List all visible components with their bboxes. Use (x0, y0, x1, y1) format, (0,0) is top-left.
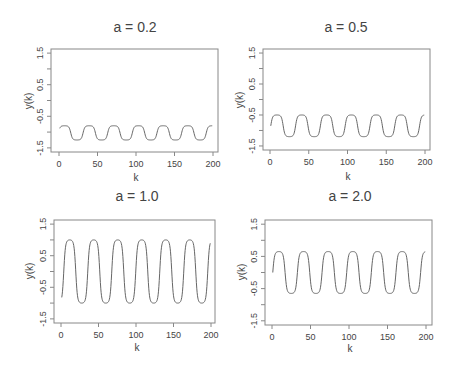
x-axis: 050100150200 (56, 152, 220, 169)
x-tick-label: 200 (418, 332, 433, 342)
series-line (271, 115, 424, 137)
panel-a-0-5: a = 0.5 -1.5-0.50.51.5 050100150200 y(k)… (234, 19, 433, 182)
x-axis: 050100150200 (269, 325, 433, 342)
x-tick-label: 150 (379, 157, 394, 167)
x-tick-label: 200 (417, 157, 432, 167)
x-tick-label: 50 (304, 157, 314, 167)
y-tick-label: -0.5 (35, 109, 45, 125)
x-tick-label: 0 (269, 332, 274, 342)
y-tick-label: -0.5 (38, 280, 48, 296)
panel-title: a = 0.5 (324, 19, 367, 35)
y-tick-label: 0.5 (247, 78, 257, 91)
panel-title: a = 0.2 (113, 19, 156, 35)
y-axis: -1.5-0.50.51.5 (38, 218, 54, 327)
panel-a-1-0: a = 1.0 -1.5-0.50.51.5 050100150200 y(k)… (24, 188, 219, 353)
x-tick-label: 100 (341, 332, 356, 342)
figure: a = 0.2 -1.5-0.50.51.5 050100150200 y(k)… (0, 0, 453, 373)
x-axis-label: k (134, 172, 140, 183)
y-tick-label: -0.5 (247, 107, 257, 123)
y-tick-label: -1.5 (35, 140, 45, 156)
y-axis: -1.5-0.50.51.5 (35, 47, 51, 156)
y-tick-label: 1.5 (38, 218, 48, 231)
y-tick-label: 0.5 (249, 250, 259, 263)
x-axis-label: k (348, 343, 354, 354)
x-tick-label: 150 (380, 332, 395, 342)
panel-title: a = 2.0 (328, 188, 371, 204)
plot-box (265, 220, 432, 325)
y-tick-label: 0.5 (35, 78, 45, 91)
y-axis-label: y(k) (23, 93, 34, 110)
x-tick-label: 200 (205, 159, 220, 169)
panel-title: a = 1.0 (115, 188, 158, 204)
plot-box (263, 49, 430, 150)
y-tick-label: 1.5 (247, 47, 257, 60)
y-axis: -1.5-0.50.51.5 (247, 47, 263, 154)
y-tick-label: -1.5 (247, 138, 257, 154)
y-tick-label: -1.5 (38, 311, 48, 327)
x-tick-label: 50 (305, 332, 315, 342)
series-line (62, 240, 211, 303)
panel-a-0-2: a = 0.2 -1.5-0.50.51.5 050100150200 y(k)… (23, 19, 221, 183)
x-tick-label: 0 (267, 157, 272, 167)
y-tick-label: 0.5 (38, 249, 48, 262)
x-tick-label: 50 (92, 159, 102, 169)
y-axis-label: y(k) (234, 92, 245, 109)
x-axis: 050100150200 (58, 323, 218, 340)
x-tick-label: 100 (128, 330, 143, 340)
y-tick-label: -1.5 (249, 313, 259, 329)
x-axis-label: k (135, 342, 141, 353)
y-tick-label: 1.5 (249, 218, 259, 231)
x-tick-label: 200 (203, 330, 218, 340)
series-line (60, 126, 212, 140)
x-tick-label: 150 (167, 159, 182, 169)
y-tick-label: -0.5 (249, 281, 259, 297)
x-tick-label: 150 (166, 330, 181, 340)
x-tick-label: 0 (58, 330, 63, 340)
series-line (273, 252, 425, 294)
plot-box (54, 220, 215, 323)
x-axis-label: k (346, 171, 352, 182)
x-tick-label: 50 (93, 330, 103, 340)
x-tick-label: 100 (340, 157, 355, 167)
x-axis: 050100150200 (267, 150, 432, 167)
y-tick-label: 1.5 (35, 47, 45, 60)
panel-a-2-0: a = 2.0 -1.5-0.50.51.5 050100150200 y(k)… (236, 188, 434, 354)
x-tick-label: 0 (56, 159, 61, 169)
y-axis-label: y(k) (24, 263, 35, 280)
plot-box (51, 49, 218, 152)
x-tick-label: 100 (128, 159, 143, 169)
y-axis: -1.5-0.50.51.5 (249, 218, 265, 329)
y-axis-label: y(k) (236, 264, 247, 281)
